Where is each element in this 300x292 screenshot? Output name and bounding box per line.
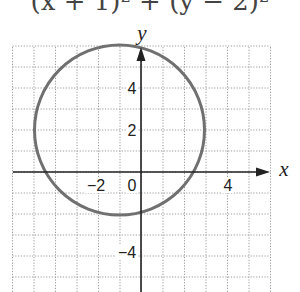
y-axis-label: y xyxy=(135,21,147,45)
y-tick-2: 2 xyxy=(128,122,137,139)
x-tick-0: 0 xyxy=(128,177,137,194)
x-tick-4: 4 xyxy=(224,177,233,194)
y-tick-4: 4 xyxy=(128,80,137,97)
circle-graph: (x + 1)² + (y − 2)² x y −2 0 4 4 2 −4 xyxy=(0,0,300,292)
axes xyxy=(13,47,270,292)
x-axis-arrow-icon xyxy=(256,168,270,177)
y-tick-neg4: −4 xyxy=(118,244,136,261)
equation-title: (x + 1)² + (y − 2)² xyxy=(31,0,270,16)
x-tick-neg2: −2 xyxy=(87,177,105,194)
x-axis-label: x xyxy=(278,157,289,181)
tick-labels: −2 0 4 4 2 −4 xyxy=(84,80,234,261)
